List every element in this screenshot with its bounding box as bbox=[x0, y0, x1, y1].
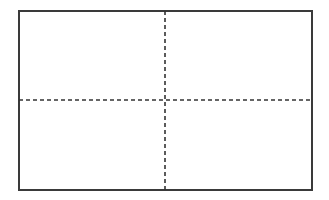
quadrant-top-left bbox=[20, 12, 164, 99]
quadrant-top-right bbox=[166, 12, 311, 99]
quadrant-bottom-left bbox=[20, 101, 164, 189]
quadrant-bottom-right bbox=[166, 101, 311, 189]
